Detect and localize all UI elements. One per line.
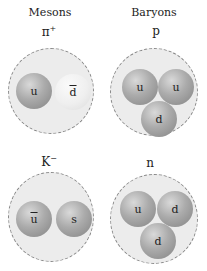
proton-hadron: u u d bbox=[110, 48, 198, 136]
quark-u: u bbox=[120, 191, 156, 227]
quark-s: s bbox=[56, 201, 92, 237]
quark-u: u bbox=[16, 73, 52, 109]
quark-u: u bbox=[122, 69, 158, 105]
neutron-symbol: n bbox=[130, 156, 170, 170]
antiquark-d: d bbox=[55, 74, 91, 110]
quark-u: u bbox=[158, 69, 194, 105]
antiquark-u: u bbox=[16, 201, 52, 237]
mesons-header: Mesons bbox=[10, 6, 90, 19]
k-minus-symbol: K− bbox=[29, 154, 69, 169]
k-minus-hadron: u s bbox=[8, 172, 94, 262]
pi-plus-symbol: π+ bbox=[29, 24, 69, 39]
quark-d: d bbox=[140, 223, 176, 259]
pi-plus-hadron: u d bbox=[8, 48, 94, 134]
quark-d: d bbox=[157, 191, 193, 227]
baryons-header: Baryons bbox=[114, 6, 194, 19]
quark-d: d bbox=[141, 101, 177, 137]
neutron-hadron: u d d bbox=[110, 174, 198, 264]
proton-symbol: p bbox=[136, 24, 176, 38]
